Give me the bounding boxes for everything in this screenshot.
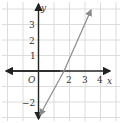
plotted-line — [40, 10, 91, 115]
x-tick-label: 3 — [82, 75, 88, 85]
y-tick-label: −2 — [22, 98, 35, 108]
origin-label: O — [28, 75, 36, 85]
y-tick-label: 3 — [29, 20, 35, 30]
x-axis-label: x — [107, 76, 112, 86]
y-tick-label: 1 — [30, 51, 36, 61]
y-axis-label: y — [40, 3, 47, 13]
x-tick-label: 2 — [66, 75, 72, 85]
x-tick-label: 4 — [97, 75, 103, 85]
grid — [2, 2, 120, 121]
y-tick-label: 2 — [29, 36, 35, 46]
coordinate-plane: y x O 3 2 1 −2 2 3 4 — [0, 0, 121, 123]
